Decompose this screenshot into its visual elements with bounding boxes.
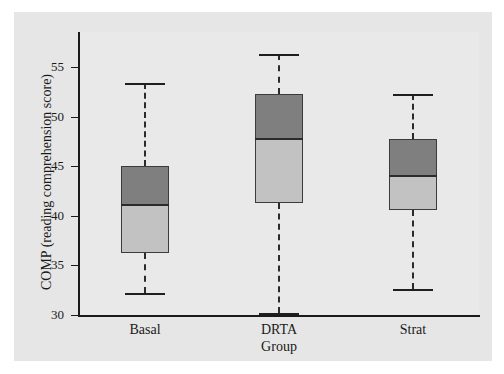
median-line bbox=[389, 175, 437, 177]
figure-panel: 303540455055 BasalDRTAStratGroup COMP (r… bbox=[14, 12, 492, 361]
boxplot-strat bbox=[14, 12, 492, 361]
box-lower-quartile bbox=[389, 176, 437, 210]
upper-whisker bbox=[412, 94, 414, 140]
box-upper-quartile bbox=[389, 139, 437, 176]
lower-whisker bbox=[412, 210, 414, 289]
upper-whisker-cap bbox=[393, 94, 433, 96]
y-axis-title: COMP (reading comprehension score) bbox=[39, 42, 55, 322]
lower-whisker-cap bbox=[393, 289, 433, 291]
